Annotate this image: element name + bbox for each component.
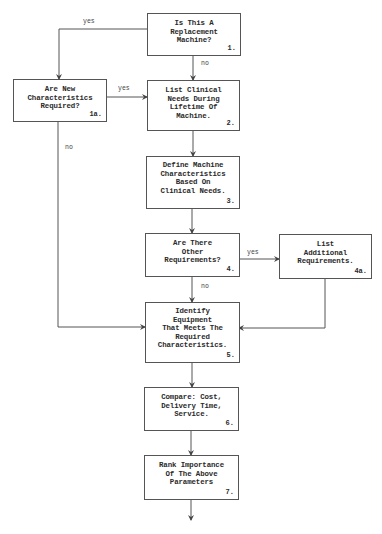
node-number: 4a. (354, 267, 367, 275)
edge-label-no: no (201, 283, 209, 290)
node-number: 1. (228, 44, 236, 52)
node-6-compare: Compare: Cost, Delivery Time, Service. 6… (144, 387, 239, 431)
node-number: 3. (227, 197, 235, 205)
node-text: List Clinical Needs During Lifetime Of M… (150, 86, 237, 120)
node-3-define-characteristics: Define Machine Characteristics Based On … (146, 156, 240, 209)
node-text: Is This A Replacement Machine? (150, 19, 238, 45)
node-text: Identify Equipment That Meets The Requir… (148, 307, 237, 350)
edge-label-yes: yes (247, 249, 259, 256)
node-text: Are New Characteristics Required? (16, 85, 104, 111)
edge-label-yes: yes (118, 85, 130, 92)
node-2-list-clinical-needs: List Clinical Needs During Lifetime Of M… (147, 80, 240, 131)
flowchart-canvas: yes no yes no yes no Is This A Replaceme… (0, 0, 382, 534)
node-text: Are There Other Requirements? (148, 239, 237, 265)
node-text: Define Machine Characteristics Based On … (149, 161, 237, 195)
node-5-identify-equipment: Identify Equipment That Meets The Requir… (145, 302, 240, 363)
node-number: 4. (227, 265, 235, 273)
node-number: 1a. (89, 110, 102, 118)
node-number: 7. (226, 488, 234, 496)
node-text: Compare: Cost, Delivery Time, Service. (147, 393, 236, 419)
edge-label-yes: yes (83, 18, 95, 25)
edge-label-no: no (65, 144, 73, 151)
node-1a-new-characteristics: Are New Characteristics Required? 1a. (13, 79, 107, 122)
node-7-rank-importance: Rank Importance Of The Above Parameters … (144, 455, 239, 500)
edge-label-no: no (201, 60, 209, 67)
node-number: 5. (227, 351, 235, 359)
node-4a-additional-requirements: List Additional Requirements. 4a. (279, 234, 372, 279)
node-1-replacement-machine: Is This A Replacement Machine? 1. (147, 13, 241, 56)
node-4-other-requirements: Are There Other Requirements? 4. (145, 233, 240, 277)
node-number: 6. (226, 419, 234, 427)
node-text: List Additional Requirements. (282, 240, 369, 266)
node-text: Rank Importance Of The Above Parameters (147, 461, 236, 487)
node-number: 2. (227, 119, 235, 127)
